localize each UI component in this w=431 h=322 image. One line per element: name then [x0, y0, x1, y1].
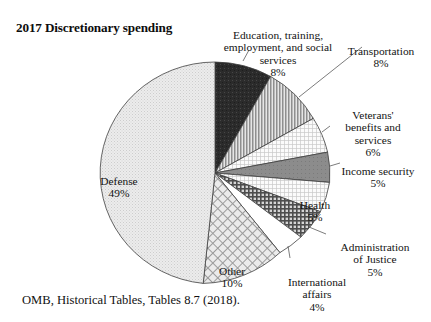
- pie-label-income-security-value: 5%: [328, 177, 428, 190]
- pie-label-health-text: Health: [300, 199, 330, 211]
- leader-line-veterans: [322, 126, 330, 132]
- pie-label-income-security-text: Income security: [341, 165, 414, 177]
- pie-label-international-affairs-text: International affairs: [288, 276, 346, 301]
- pie-label-other-text: Other: [219, 265, 245, 277]
- pie-label-transportation-value: 8%: [332, 57, 430, 70]
- discretionary-spending-figure: 2017 Discretionary spending: [0, 0, 431, 322]
- source-caption: OMB, Historical Tables, Tables 8.7 (2018…: [22, 293, 240, 308]
- pie-label-administration-of-justice-text: Administration of Justice: [341, 241, 410, 266]
- pie-label-health-value: 5%: [293, 211, 337, 224]
- pie-label-international-affairs-value: 4%: [276, 301, 358, 314]
- pie-label-education: Education, training, employment, and soc…: [212, 16, 344, 92]
- pie-label-income-security: Income security 5%: [328, 152, 428, 202]
- pie-label-education-text: Education, training, employment, and soc…: [224, 29, 333, 66]
- pie-label-transportation-text: Transportation: [348, 45, 415, 57]
- pie-label-defense-value: 49%: [88, 187, 150, 200]
- pie-label-international-affairs: International affairs 4%: [276, 263, 358, 322]
- pie-label-other-value: 10%: [205, 277, 259, 290]
- pie-label-education-value: 8%: [212, 66, 344, 79]
- pie-label-transportation: Transportation 8%: [332, 32, 430, 82]
- pie-label-defense-text: Defense: [100, 175, 137, 187]
- pie-label-veterans-text: Veterans' benefits and services: [345, 109, 400, 146]
- leader-line-international-affairs: [288, 246, 290, 258]
- pie-label-defense: Defense 49%: [88, 162, 150, 212]
